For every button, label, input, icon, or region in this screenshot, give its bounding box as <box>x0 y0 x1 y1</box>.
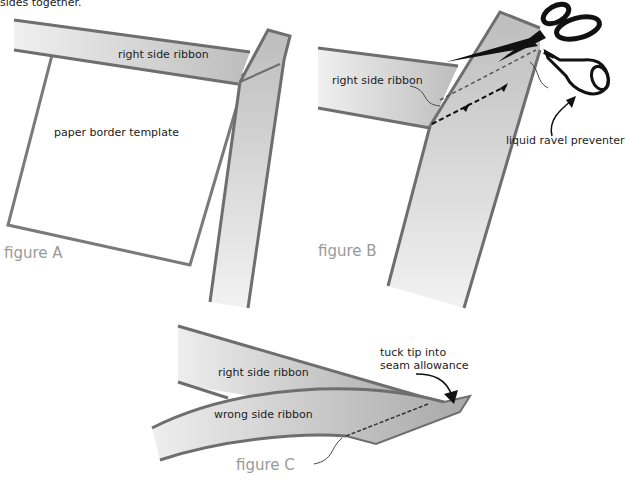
label-liquid-ravel-preventer: liquid ravel preventer <box>506 134 625 147</box>
label-right-side-ribbon-c: right side ribbon <box>218 366 309 379</box>
label-tuck-tip-line1: tuck tip into <box>380 346 446 359</box>
ravel-preventer-bottle-icon <box>544 52 612 94</box>
label-tuck-tip-line2: seam allowance <box>380 359 469 372</box>
figure-a-title: figure A <box>4 244 63 262</box>
label-wrong-side-ribbon: wrong side ribbon <box>214 408 313 421</box>
label-right-side-ribbon-b: right side ribbon <box>332 74 423 87</box>
paper-border-template <box>8 55 246 265</box>
label-right-side-ribbon-a: right side ribbon <box>118 48 209 61</box>
figure-c-title: figure C <box>236 456 295 474</box>
figure-b-title: figure B <box>318 242 377 260</box>
caption-fragment: sides together. <box>0 0 82 9</box>
figure-a-drawing <box>8 20 290 308</box>
label-paper-border-template: paper border template <box>54 126 179 139</box>
vertical-ribbon-b <box>388 12 540 308</box>
figure-b-drawing <box>318 0 612 308</box>
